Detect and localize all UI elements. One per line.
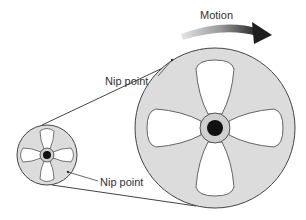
belt-drive-diagram: Nip point Nip point Motion: [0, 0, 306, 220]
small-pulley: [17, 125, 77, 185]
small-pulley-hub: [43, 151, 51, 159]
large-pulley-hub: [207, 120, 223, 136]
motion-label: Motion: [200, 9, 233, 21]
motion-arrow-icon: [181, 22, 272, 44]
nip-point-top-label: Nip point: [105, 75, 148, 87]
nip-point-bottom-label: Nip point: [100, 176, 143, 188]
nip-point-bottom-marker: [67, 171, 69, 173]
large-pulley: [135, 48, 295, 208]
nip-point-top-marker: [171, 59, 173, 61]
